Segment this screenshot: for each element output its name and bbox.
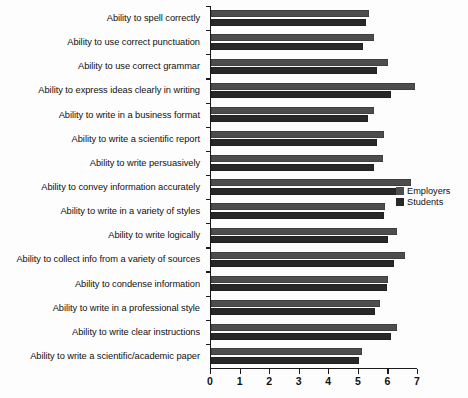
bar-group [211, 175, 417, 199]
y-axis-tick [206, 320, 211, 321]
x-axis-tick [299, 369, 300, 374]
category-label: Ability to collect info from a variety o… [0, 247, 206, 271]
bar-employers [211, 228, 397, 235]
legend-item: Employers [396, 186, 450, 196]
bar-students [211, 308, 375, 315]
bar-employers [211, 83, 415, 90]
category-label: Ability to condense information [0, 272, 206, 296]
bar-employers [211, 34, 374, 41]
x-axis-tick [387, 369, 388, 374]
bar-group [211, 30, 417, 54]
bar-group [211, 151, 417, 175]
bar-students [211, 115, 368, 122]
bar-employers [211, 348, 362, 355]
plot-area: 01234567 [210, 6, 417, 368]
y-axis-tick [206, 223, 211, 224]
bar-students [211, 284, 387, 291]
x-axis-tick [269, 369, 270, 374]
category-label: Ability to write in a professional style [0, 296, 206, 320]
bar-employers [211, 131, 384, 138]
bar-employers [211, 252, 405, 259]
y-axis-tick [206, 151, 211, 152]
bar-group [211, 320, 417, 344]
bar-group [211, 78, 417, 102]
x-axis-tick [328, 369, 329, 374]
legend-label: Students [407, 197, 443, 207]
legend-item: Students [396, 197, 450, 207]
bar-group [211, 247, 417, 271]
legend-swatch-icon [396, 187, 404, 195]
bar-employers [211, 203, 385, 210]
x-axis-tick [358, 369, 359, 374]
x-axis-tick-label: 5 [348, 375, 368, 387]
x-axis-tick-label: 4 [318, 375, 338, 387]
bar-students [211, 212, 384, 219]
bar-students [211, 357, 359, 364]
category-label: Ability to spell correctly [0, 6, 206, 30]
y-axis-tick [206, 6, 211, 7]
x-axis-tick-label: 0 [200, 375, 220, 387]
category-label: Ability to use correct punctuation [0, 30, 206, 54]
y-axis-tick [206, 103, 211, 104]
y-axis-tick [206, 199, 211, 200]
legend-swatch-icon [396, 198, 404, 206]
x-axis-tick-label: 6 [377, 375, 397, 387]
bar-employers [211, 59, 388, 66]
bar-employers [211, 300, 380, 307]
legend-label: Employers [407, 186, 450, 196]
category-label-column: Ability to spell correctlyAbility to use… [0, 6, 206, 368]
bar-students [211, 236, 388, 243]
category-label: Ability to express ideas clearly in writ… [0, 78, 206, 102]
x-axis-line [210, 368, 417, 369]
y-axis-tick [206, 54, 211, 55]
bar-group [211, 103, 417, 127]
bar-group [211, 223, 417, 247]
bar-students [211, 67, 377, 74]
y-axis-tick [206, 247, 211, 248]
bar-group [211, 127, 417, 151]
category-label: Ability to write a scientific report [0, 127, 206, 151]
horizontal-bar-chart: Ability to spell correctlyAbility to use… [0, 0, 468, 398]
y-axis-tick [206, 78, 211, 79]
bar-employers [211, 179, 411, 186]
category-label: Ability to write in a variety of styles [0, 199, 206, 223]
bar-employers [211, 10, 369, 17]
bar-students [211, 188, 397, 195]
y-axis-tick [206, 344, 211, 345]
bar-group [211, 54, 417, 78]
x-axis-tick-label: 1 [230, 375, 250, 387]
category-label: Ability to write a scientific/academic p… [0, 344, 206, 368]
bar-students [211, 139, 377, 146]
category-label: Ability to write persuasively [0, 151, 206, 175]
category-label: Ability to write in a business format [0, 103, 206, 127]
y-axis-tick [206, 271, 211, 272]
bar-group [211, 344, 417, 368]
bar-group [211, 199, 417, 223]
bar-group [211, 296, 417, 320]
bar-employers [211, 324, 397, 331]
bar-students [211, 91, 391, 98]
bar-students [211, 43, 363, 50]
bar-employers [211, 107, 374, 114]
y-axis-tick [206, 127, 211, 128]
x-axis-tick [210, 369, 211, 374]
category-label: Ability to write clear instructions [0, 320, 206, 344]
x-axis-tick-label: 7 [407, 375, 427, 387]
x-axis-tick-label: 3 [289, 375, 309, 387]
category-label: Ability to convey information accurately [0, 175, 206, 199]
bar-group [211, 271, 417, 295]
x-axis-tick-label: 2 [259, 375, 279, 387]
bar-students [211, 333, 391, 340]
y-axis-tick [206, 30, 211, 31]
bar-students [211, 164, 374, 171]
x-axis-tick [417, 369, 418, 374]
bar-students [211, 19, 366, 26]
x-axis-tick [240, 369, 241, 374]
y-axis-tick [206, 175, 211, 176]
bar-employers [211, 276, 388, 283]
bar-group [211, 6, 417, 30]
y-axis-tick [206, 296, 211, 297]
category-label: Ability to use correct grammar [0, 54, 206, 78]
bar-employers [211, 155, 383, 162]
chart-legend: EmployersStudents [396, 186, 450, 207]
